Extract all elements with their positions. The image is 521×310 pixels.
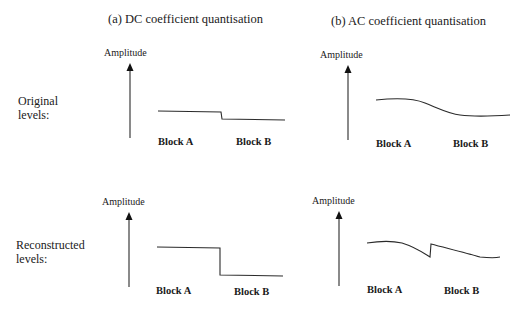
signal-ac-reconstructed bbox=[367, 242, 500, 258]
arrowhead-icon bbox=[336, 211, 343, 219]
signal-dc-original bbox=[158, 111, 285, 120]
arrowhead-icon bbox=[127, 63, 134, 71]
signal-dc-reconstructed bbox=[157, 247, 283, 276]
arrowhead-icon bbox=[345, 65, 352, 73]
arrowhead-icon bbox=[126, 212, 133, 220]
diagram-canvas bbox=[0, 0, 521, 310]
signal-ac-original bbox=[376, 99, 510, 116]
